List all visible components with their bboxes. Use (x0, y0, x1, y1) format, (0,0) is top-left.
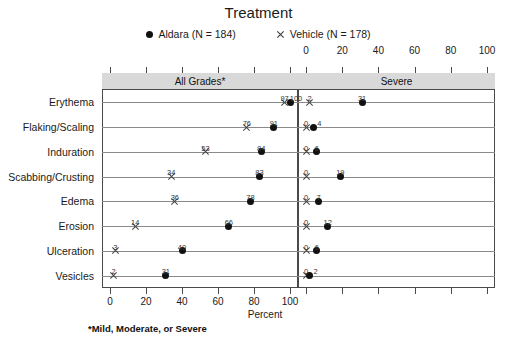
vehicle-value-label: 3 (113, 243, 117, 252)
row-baseline (102, 251, 298, 252)
x-axis-title: Percent (248, 309, 282, 320)
data-row: 231 (298, 90, 495, 115)
data-row: 3483 (102, 164, 298, 189)
axis-tick-label: 80 (248, 296, 259, 307)
row-baseline (102, 201, 298, 202)
category-label: Erosion (58, 220, 94, 232)
aldara-value-label: 7 (317, 193, 321, 202)
chart-footnote: *Mild, Moderate, or Severe (88, 323, 207, 334)
filled-circle-icon (146, 31, 153, 38)
data-row: 340 (102, 239, 298, 264)
category-label: Induration (47, 146, 94, 158)
panel-header-severe: Severe (298, 73, 495, 90)
aldara-value-label: 31 (358, 94, 366, 103)
axis-tick-label: 20 (337, 45, 348, 56)
axis-tick (342, 288, 343, 294)
chart-legend: Aldara (N = 184) Vehicle (N = 178) (0, 28, 517, 40)
data-row: 06 (298, 239, 495, 264)
vehicle-value-label: 14 (131, 218, 139, 227)
axis-tick (146, 288, 147, 294)
vehicle-value-label: 0 (304, 168, 308, 177)
row-baseline (298, 177, 495, 178)
axis-tick (110, 288, 111, 294)
panel-severe: Severe 020406080100 2310406019070120602 (298, 73, 495, 288)
axis-tick (218, 288, 219, 294)
aldara-value-label: 6 (315, 144, 319, 153)
axis-tick (415, 67, 416, 73)
panel-header-all-grades: All Grades* (102, 73, 298, 90)
axis-tick (254, 67, 255, 73)
category-label: Edema (61, 195, 94, 207)
row-baseline (298, 276, 495, 277)
axis-tick (415, 288, 416, 294)
row-baseline (298, 152, 495, 153)
axis-tick (110, 67, 111, 73)
legend-item-aldara: Aldara (N = 184) (146, 28, 235, 40)
axis-tick (306, 288, 307, 294)
axis-tick-label: 100 (479, 45, 496, 56)
row-baseline (298, 201, 495, 202)
axis-tick-label: 60 (212, 296, 223, 307)
category-label: Scabbing/Crusting (8, 171, 94, 183)
vehicle-value-label: 0 (304, 119, 308, 128)
category-label: Ulceration (47, 245, 94, 257)
aldara-value-label: 66 (225, 218, 233, 227)
aldara-value-label: 84 (257, 144, 265, 153)
vehicle-value-label: 76 (243, 119, 251, 128)
category-label: Flaking/Scaling (23, 121, 94, 133)
axis-tick (182, 288, 183, 294)
data-row: 06 (298, 140, 495, 165)
data-row: 04 (298, 115, 495, 140)
data-row: 5384 (102, 140, 298, 165)
axis-tick (290, 67, 291, 73)
axis-tick (451, 67, 452, 73)
data-row: 07 (298, 189, 495, 214)
axis-tick (451, 288, 452, 294)
row-baseline (102, 276, 298, 277)
axis-tick (182, 67, 183, 73)
aldara-value-label: 12 (324, 218, 332, 227)
row-baseline (298, 251, 495, 252)
plot-area: All Grades* 020406080100 971007691538434… (102, 73, 495, 288)
data-row: 019 (298, 164, 495, 189)
axis-tick-label: 20 (140, 296, 151, 307)
axis-tick (487, 67, 488, 73)
top-axis-right: 020406080100 (298, 67, 495, 73)
axis-tick (218, 67, 219, 73)
aldara-value-label: 40 (178, 243, 186, 252)
vehicle-value-label: 0 (304, 144, 308, 153)
legend-label-vehicle: Vehicle (N = 178) (290, 28, 371, 40)
bottom-axis-right (298, 288, 495, 294)
vehicle-value-label: 97 (280, 94, 288, 103)
axis-tick (290, 288, 291, 294)
data-row: 012 (298, 214, 495, 239)
axis-tick-label: 0 (107, 296, 113, 307)
axis-tick (378, 288, 379, 294)
vehicle-value-label: 0 (304, 193, 308, 202)
aldara-data-point (310, 124, 317, 131)
vehicle-value-label: 53 (201, 144, 209, 153)
row-baseline (102, 127, 298, 128)
category-axis-labels: ErythemaFlaking/ScalingIndurationScabbin… (0, 73, 100, 288)
axis-tick (342, 67, 343, 73)
vehicle-value-label: 2 (112, 267, 116, 276)
row-baseline (102, 177, 298, 178)
data-row: 02 (298, 263, 495, 288)
x-cross-icon (276, 30, 285, 39)
axis-tick (254, 288, 255, 294)
row-baseline (298, 102, 495, 103)
aldara-value-label: 83 (255, 168, 263, 177)
axis-tick (306, 67, 307, 73)
vehicle-value-label: 2 (308, 94, 312, 103)
data-row: 1466 (102, 214, 298, 239)
vehicle-value-label: 0 (304, 267, 308, 276)
aldara-value-label: 6 (315, 243, 319, 252)
row-baseline (102, 102, 298, 103)
legend-item-vehicle: Vehicle (N = 178) (276, 28, 371, 40)
panel-all-grades: All Grades* 020406080100 971007691538434… (102, 73, 298, 288)
vehicle-value-label: 34 (167, 168, 175, 177)
aldara-value-label: 91 (270, 119, 278, 128)
axis-tick-label: 60 (409, 45, 420, 56)
axis-tick-label: 100 (282, 296, 299, 307)
data-rows-all-grades: 9710076915384348336781466340231 (102, 90, 298, 288)
